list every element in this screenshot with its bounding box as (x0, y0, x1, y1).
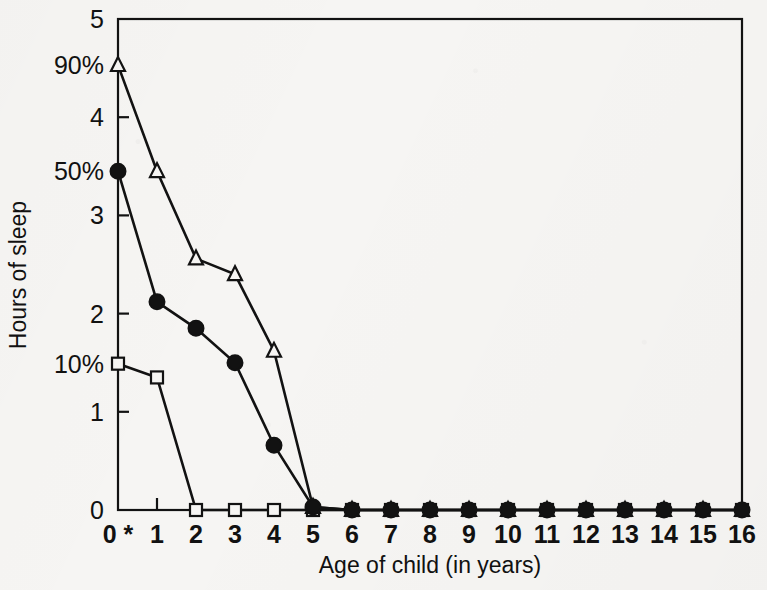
data-point-circle (150, 294, 165, 309)
y-axis-title: Hours of sleep (5, 201, 31, 349)
data-point-circle (306, 500, 321, 515)
x-tick-label: 10 (494, 520, 522, 548)
series-line (118, 65, 742, 510)
series-circle-filled (111, 164, 750, 518)
data-point-circle (345, 503, 360, 518)
percentile-label: 10% (54, 350, 104, 378)
data-point-circle (228, 355, 243, 370)
y-tick-label: 2 (90, 300, 104, 328)
data-point-circle (501, 503, 516, 518)
data-point-circle (111, 164, 126, 179)
data-point-circle (696, 503, 711, 518)
series-line (118, 364, 742, 510)
x-tick-label: 2 (189, 520, 203, 548)
x-tick-label: 7 (384, 520, 398, 548)
x-tick-label: 1 (150, 520, 164, 548)
data-point-square (229, 504, 241, 516)
x-tick-label: 11 (534, 520, 561, 548)
data-point-triangle (267, 343, 281, 357)
x-tick-label: 3 (228, 520, 242, 548)
x-tick-label: 9 (462, 520, 476, 548)
x-axis-title: Age of child (in years) (319, 552, 541, 578)
data-point-circle (579, 503, 594, 518)
data-point-square (190, 504, 202, 516)
series-square-open (112, 358, 748, 516)
x-tick-label: 8 (423, 520, 437, 548)
x-tick-label: 15 (689, 520, 717, 548)
x-tick-label: 16 (728, 520, 756, 548)
y-tick-label: 5 (90, 5, 104, 33)
data-point-circle (462, 503, 477, 518)
series-line (118, 171, 742, 510)
y-tick-label: 1 (90, 398, 104, 426)
data-point-triangle (189, 251, 203, 265)
data-point-circle (657, 503, 672, 518)
data-point-circle (618, 503, 633, 518)
series-triangle-open (111, 57, 749, 516)
x-tick-label: 5 (306, 520, 320, 548)
sleep-hours-line-chart: 012345 0 *12345678910111213141516 90%50%… (0, 0, 767, 590)
x-tick-label: 12 (572, 520, 600, 548)
data-point-triangle (150, 163, 164, 177)
data-series-group (111, 57, 750, 517)
data-point-circle (735, 503, 750, 518)
data-point-circle (384, 503, 399, 518)
percentile-label: 90% (54, 51, 104, 79)
data-point-circle (423, 503, 438, 518)
x-tick-label: 13 (611, 520, 639, 548)
x-tick-label: 0 * (103, 520, 134, 548)
y-tick-label: 4 (90, 103, 104, 131)
data-point-circle (540, 503, 555, 518)
chart-container: 012345 0 *12345678910111213141516 90%50%… (0, 0, 767, 590)
x-tick-label: 6 (345, 520, 359, 548)
x-tick-label: 4 (267, 520, 281, 548)
data-point-circle (189, 321, 204, 336)
data-point-square (268, 504, 280, 516)
data-point-triangle (111, 57, 125, 71)
data-point-circle (267, 438, 282, 453)
data-point-square (151, 371, 163, 383)
data-point-square (112, 358, 124, 370)
percentile-label: 50% (54, 157, 104, 185)
y-tick-label: 3 (90, 201, 104, 229)
x-tick-label: 14 (650, 520, 678, 548)
